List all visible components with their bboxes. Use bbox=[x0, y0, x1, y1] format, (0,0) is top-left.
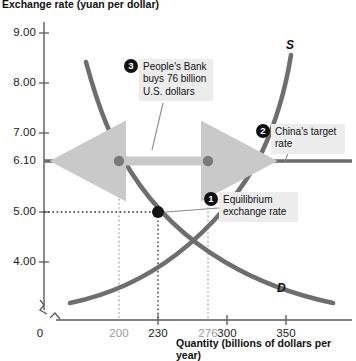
y-axis-title: Exchange rate (yuan per dollar) bbox=[2, 0, 159, 10]
callout-2-badge: 2 bbox=[256, 124, 270, 138]
axis-break-marks bbox=[40, 300, 60, 319]
y-tick-label-8: 8.00 bbox=[2, 76, 36, 88]
callout-2-line-1: China's target bbox=[275, 126, 341, 138]
callout-1-line-2: exchange rate bbox=[223, 206, 294, 218]
callout-3-leader bbox=[152, 103, 163, 150]
x-tick-label-200: 200 bbox=[102, 327, 136, 339]
supply-curve-label: S bbox=[286, 38, 294, 52]
point-supply-at-target bbox=[203, 156, 213, 166]
x-axis-title: Quantity (billions of dollars per year) bbox=[176, 337, 356, 361]
callout-1-leader bbox=[166, 208, 219, 212]
demand-curve-label: D bbox=[277, 281, 286, 295]
callout-1-line-1: Equilibrium bbox=[223, 194, 294, 206]
x-tick-label-230: 230 bbox=[141, 327, 175, 339]
callout-3-line-1: People's Bank bbox=[143, 61, 209, 73]
callout-3-box: People's Bank buys 76 billion U.S. dolla… bbox=[139, 59, 213, 101]
callout-3-line-2: buys 76 billion bbox=[143, 73, 209, 85]
callout-2-box: China's target rate bbox=[271, 124, 345, 154]
origin-label: 0 bbox=[23, 327, 57, 339]
callout-3-line-3: U.S. dollars bbox=[143, 86, 209, 98]
callout-1-box: Equilibrium exchange rate bbox=[219, 192, 298, 222]
point-equilibrium bbox=[152, 206, 164, 218]
y-tick-label-7: 7.00 bbox=[2, 126, 36, 138]
point-demand-at-target bbox=[114, 156, 124, 166]
y-tick-label-5: 5.00 bbox=[2, 205, 36, 217]
callout-2-line-2: rate bbox=[275, 138, 341, 150]
y-tick-label-4: 4.00 bbox=[2, 255, 36, 267]
callout-1-badge: 1 bbox=[204, 192, 218, 206]
y-tick-label-9: 9.00 bbox=[2, 26, 36, 38]
y-tick-label-6-10: 6.10 bbox=[2, 154, 36, 166]
callout-3-badge: 3 bbox=[124, 59, 138, 73]
